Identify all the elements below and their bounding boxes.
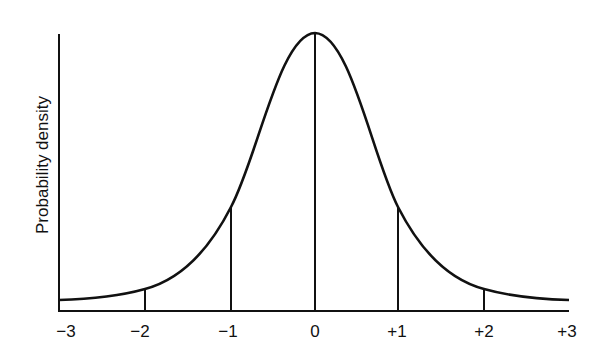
x-tick-label: −1 xyxy=(218,322,237,341)
normal-curve-chart: −3 −2 −1 0 +1 +2 +3 Probability density xyxy=(0,0,598,351)
x-tick-label: 0 xyxy=(310,322,319,341)
x-tick-label: +1 xyxy=(387,322,406,341)
x-tick-label: +2 xyxy=(474,322,493,341)
x-tick-label: +3 xyxy=(557,322,576,341)
y-axis-label: Probability density xyxy=(33,96,52,234)
x-tick-label: −2 xyxy=(130,322,149,341)
x-tick-label: −3 xyxy=(56,322,75,341)
